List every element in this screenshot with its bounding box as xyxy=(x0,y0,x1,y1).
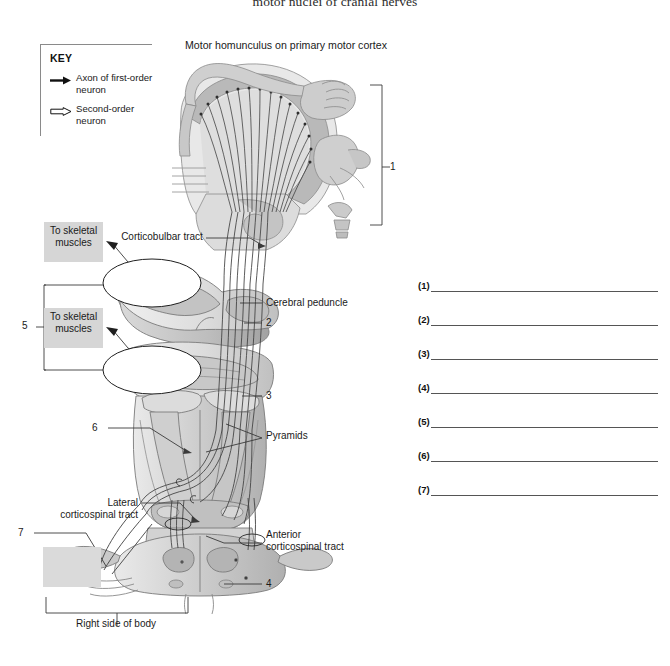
label-pyramids: Pyramids xyxy=(266,430,336,442)
answer-write-line[interactable] xyxy=(431,290,658,292)
label-lateral-corticospinal-tract: Lateral corticospinal tract xyxy=(50,497,138,521)
answer-number: (4) xyxy=(418,382,430,394)
label-cerebral-peduncle: Cerebral peduncle xyxy=(266,297,376,309)
answer-number: (3) xyxy=(418,348,430,360)
label-anterior-corticospinal-tract: Anterior corticospinal tract xyxy=(266,529,348,553)
blank-ellipse-upper xyxy=(103,259,201,307)
answer-row[interactable]: (1) xyxy=(418,258,658,292)
answer-number: (7) xyxy=(418,484,430,496)
callout-number-1: 1 xyxy=(390,161,404,173)
blank-ellipse-lower xyxy=(103,346,201,394)
blank-answer-box-7[interactable] xyxy=(43,547,101,587)
answer-number: (1) xyxy=(418,280,430,292)
answer-number: (5) xyxy=(418,416,430,428)
answer-number: (2) xyxy=(418,314,430,326)
to-skeletal-muscles-chip-1: To skeletal muscles xyxy=(44,222,103,262)
answer-number: (6) xyxy=(418,450,430,462)
callout-number-6: 6 xyxy=(92,422,106,434)
answer-row[interactable]: (3) xyxy=(418,326,658,360)
answer-write-line[interactable] xyxy=(431,460,658,462)
to-skeletal-muscles-chip-2: To skeletal muscles xyxy=(44,308,103,348)
callout-number-4: 4 xyxy=(266,578,282,590)
label-corticobulbar-tract: Corticobulbar tract xyxy=(120,231,204,243)
answer-row[interactable]: (4) xyxy=(418,360,658,394)
callout-number-3: 3 xyxy=(266,390,286,402)
answer-row[interactable]: (2) xyxy=(418,292,658,326)
callout-number-5: 5 xyxy=(22,320,36,332)
answer-write-line[interactable] xyxy=(431,324,658,326)
answer-write-line[interactable] xyxy=(431,358,658,360)
label-right-side-of-body: Right side of body xyxy=(56,618,176,630)
callout-number-7: 7 xyxy=(18,527,32,539)
callout-number-2: 2 xyxy=(266,317,286,329)
worksheet-page: motor nuclei of cranial nerves KEY Axon … xyxy=(0,0,670,666)
answer-blanks-list: (1) (2) (3) (4) (5) (6) (7) xyxy=(418,258,658,496)
answer-row[interactable]: (5) xyxy=(418,394,658,428)
answer-write-line[interactable] xyxy=(431,426,658,428)
blank-ellipse-group[interactable] xyxy=(100,255,220,400)
answer-row[interactable]: (6) xyxy=(418,428,658,462)
answer-row[interactable]: (7) xyxy=(418,462,658,496)
answer-write-line[interactable] xyxy=(431,494,658,496)
answer-write-line[interactable] xyxy=(431,392,658,394)
